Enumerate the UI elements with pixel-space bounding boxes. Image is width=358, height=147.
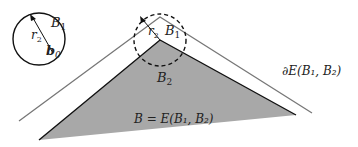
label-apex-r2: r2	[148, 24, 159, 40]
label-b0: b0	[46, 43, 61, 60]
label-b1: B1	[50, 15, 66, 32]
diagram-canvas: B1 r2 b0 r2 B1 B2 ∂E(B₁, B₂) B = E(B₁, B…	[0, 0, 358, 147]
label-boundary: ∂E(B₁, B₂)	[282, 64, 342, 78]
label-equation: B = E(B₁, B₂)	[133, 112, 214, 126]
label-apex-b1: B1	[164, 23, 180, 40]
arrowhead-icon	[30, 14, 36, 21]
